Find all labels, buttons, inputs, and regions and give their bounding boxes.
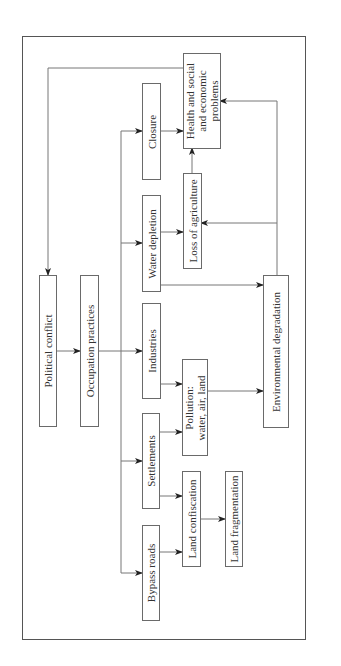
node-label: Industries bbox=[146, 329, 158, 372]
node-land-fragmentation: Land fragmentation bbox=[225, 471, 243, 567]
node-health-social-economic: Health and social and economic problems bbox=[183, 53, 221, 149]
node-closure: Closure bbox=[142, 83, 161, 180]
node-bypass-roads: Bypass roads bbox=[142, 525, 160, 621]
node-political-conflict: Political conflict bbox=[39, 275, 57, 427]
node-label: Occupation practices bbox=[84, 305, 96, 398]
node-label-line: and economic bbox=[196, 63, 208, 139]
node-label: Loss of agriculture bbox=[187, 179, 199, 262]
node-label: Health and social and economic problems bbox=[184, 63, 220, 139]
node-label: Water depletion bbox=[146, 209, 158, 279]
node-label-line: Health and social bbox=[184, 63, 196, 139]
node-land-confiscation: Land confiscation bbox=[182, 471, 201, 567]
node-loss-of-agriculture: Loss of agriculture bbox=[183, 173, 202, 269]
node-label-line: problems bbox=[208, 63, 220, 139]
node-water-depletion: Water depletion bbox=[142, 195, 161, 292]
node-label: Land confiscation bbox=[186, 479, 198, 558]
node-label: Political conflict bbox=[42, 314, 54, 387]
node-label-line: water, air, land bbox=[195, 375, 207, 440]
node-label: Closure bbox=[146, 114, 158, 148]
node-label: Environmental degradation bbox=[270, 291, 282, 411]
node-label: Bypass roads bbox=[145, 544, 157, 602]
node-environmental-degradation: Environmental degradation bbox=[263, 275, 289, 428]
node-label: Land fragmentation bbox=[228, 475, 240, 562]
node-label-line: Pollution: bbox=[183, 375, 195, 440]
node-pollution: Pollution: water, air, land bbox=[182, 359, 208, 456]
node-label: Pollution: water, air, land bbox=[183, 375, 207, 440]
node-industries: Industries bbox=[142, 303, 161, 399]
node-occupation-practices: Occupation practices bbox=[80, 275, 99, 427]
node-settlements: Settlements bbox=[142, 413, 160, 509]
node-label: Settlements bbox=[145, 435, 157, 486]
